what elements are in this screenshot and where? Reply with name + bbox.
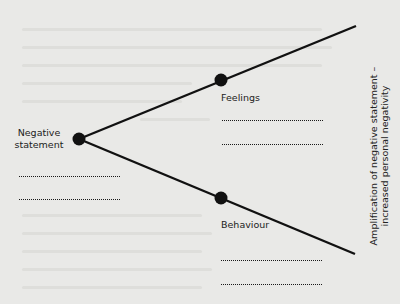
feelings-blank-line-2 bbox=[222, 144, 323, 145]
behaviour-node bbox=[215, 192, 228, 205]
behaviour-label: Behaviour bbox=[221, 219, 269, 231]
axis-label-line2: increased personal negativity bbox=[379, 56, 390, 256]
behaviour-blank-line-2 bbox=[221, 284, 322, 285]
amplification-diagram bbox=[0, 0, 400, 304]
feelings-blank-line-1 bbox=[222, 120, 323, 121]
origin-blank-line-1 bbox=[19, 176, 120, 177]
amplification-axis-label: Amplification of negative statement – in… bbox=[368, 56, 390, 256]
origin-node bbox=[73, 133, 86, 146]
origin-blank-line-2 bbox=[19, 199, 120, 200]
axis-label-line1: Amplification of negative statement – bbox=[368, 56, 379, 256]
origin-label-line1: Negative bbox=[12, 127, 66, 139]
origin-label: Negative statement bbox=[12, 127, 66, 151]
feelings-label: Feelings bbox=[221, 92, 260, 104]
behaviour-blank-line-1 bbox=[221, 260, 322, 261]
origin-label-line2: statement bbox=[12, 139, 66, 151]
feelings-node bbox=[215, 74, 228, 87]
